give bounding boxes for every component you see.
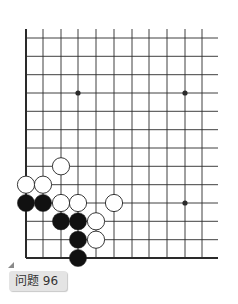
white-stone[interactable] <box>87 231 104 248</box>
white-stone[interactable] <box>69 194 86 211</box>
black-stone[interactable] <box>17 194 34 211</box>
black-stone[interactable] <box>52 213 69 230</box>
star-point <box>182 90 187 95</box>
black-stone[interactable] <box>69 249 86 266</box>
black-stone[interactable] <box>69 213 86 230</box>
problem-label: 问题 96 <box>9 271 67 291</box>
black-stone[interactable] <box>34 194 51 211</box>
star-point <box>75 90 80 95</box>
white-stone[interactable] <box>52 194 69 211</box>
white-stone[interactable] <box>105 194 122 211</box>
black-stone[interactable] <box>69 231 86 248</box>
white-stone[interactable] <box>17 176 34 193</box>
white-stone[interactable] <box>87 213 104 230</box>
white-stone[interactable] <box>34 176 51 193</box>
go-board[interactable] <box>0 0 238 270</box>
white-stone[interactable] <box>52 158 69 175</box>
star-point <box>182 200 187 205</box>
corner-triangle-icon <box>8 262 14 268</box>
